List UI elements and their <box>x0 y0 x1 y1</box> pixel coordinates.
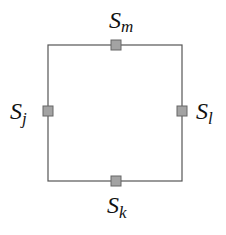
node-k-label: Sk <box>107 192 127 222</box>
node-j-marker <box>43 106 53 116</box>
square-outline <box>48 45 182 181</box>
node-j-label: Sj <box>10 98 27 128</box>
node-l-label: Sl <box>196 98 213 128</box>
node-m-label: Sm <box>109 7 133 36</box>
square-diagram: Sm Sj Sl Sk <box>0 0 226 235</box>
node-l-marker <box>177 106 187 116</box>
node-m-marker <box>111 40 121 50</box>
node-k-marker <box>111 176 121 186</box>
